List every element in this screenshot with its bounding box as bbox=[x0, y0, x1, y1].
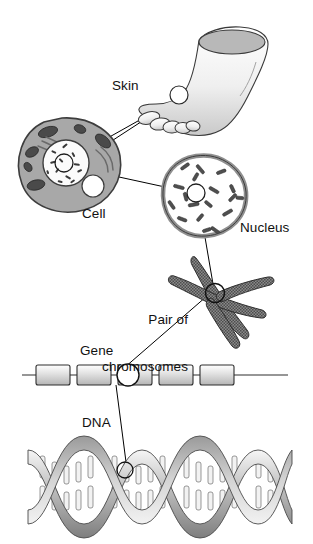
biology-hierarchy-figure: Skin Cell Nucleus Pair of chromosomes Ge… bbox=[0, 0, 313, 544]
gene-box-4 bbox=[200, 365, 234, 385]
label-nucleus: Nucleus bbox=[240, 220, 289, 236]
skin-callout-marker bbox=[170, 86, 188, 104]
vacuole bbox=[82, 175, 104, 197]
nucleus-illustration bbox=[163, 155, 246, 236]
chromosome-3 bbox=[216, 277, 274, 302]
label-chromosomes-line2: chromosomes bbox=[65, 359, 188, 375]
cell-nucleus bbox=[43, 140, 89, 186]
dna-illustration bbox=[28, 436, 292, 538]
leg-cross-section bbox=[199, 30, 265, 54]
label-skin: Skin bbox=[112, 78, 139, 94]
nucleus-callout-marker bbox=[187, 184, 205, 202]
label-dna: DNA bbox=[82, 415, 111, 431]
cell-illustration bbox=[19, 118, 121, 212]
cell-nucleus-envelope bbox=[43, 140, 89, 186]
label-gene: Gene bbox=[80, 343, 113, 359]
label-cell: Cell bbox=[82, 206, 106, 222]
label-chromosomes-line1: Pair of bbox=[65, 312, 188, 328]
skin-illustration bbox=[137, 27, 268, 136]
figure-canvas bbox=[0, 0, 313, 544]
